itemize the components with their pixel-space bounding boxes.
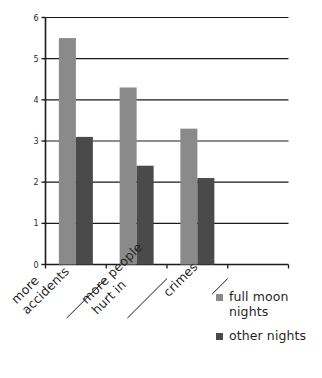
chart-legend: full moonnights other nights [216, 289, 322, 352]
bar-chart: 0123456 moreaccidentsmore peoplehurt inc… [0, 0, 322, 378]
bar [180, 129, 197, 265]
y-tick-label: 6 [33, 14, 38, 23]
y-tick-label: 4 [33, 96, 38, 105]
bar [197, 178, 214, 264]
bar [76, 137, 93, 265]
y-axis-ticks: 0123456 [33, 14, 45, 270]
y-tick-label: 5 [33, 55, 38, 64]
legend-item-other-nights[interactable]: other nights [216, 328, 322, 343]
bar [120, 87, 137, 264]
legend-item-full-moon-nights[interactable]: full moonnights [216, 289, 322, 319]
y-tick-label: 2 [33, 178, 38, 187]
legend-swatch-other-nights [216, 333, 223, 340]
legend-label-other-nights: other nights [229, 328, 306, 343]
legend-label-full-moon-nights: full moonnights [229, 289, 289, 319]
legend-swatch-full-moon-nights [216, 294, 223, 301]
y-tick-label: 1 [33, 219, 38, 228]
y-tick-label: 3 [33, 137, 38, 146]
bar-series-group [59, 38, 215, 264]
bar [59, 38, 76, 264]
